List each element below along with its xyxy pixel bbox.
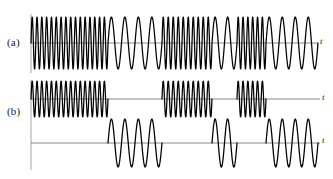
waveform-canvas [0, 0, 333, 179]
time-axis-label-b-lower: t [322, 135, 325, 145]
mark-burst-2 [162, 81, 212, 117]
panel-label-b: (b) [7, 105, 20, 117]
fsk-figure: (a) (b) t t t [0, 0, 333, 179]
mark-burst-1 [31, 81, 108, 117]
panel-label-a: (a) [7, 36, 20, 48]
time-axis-label-a: t [320, 36, 323, 46]
waves-layer [31, 17, 318, 167]
mark-burst-3 [237, 81, 266, 117]
time-axis-label-b-upper: t [322, 92, 325, 102]
